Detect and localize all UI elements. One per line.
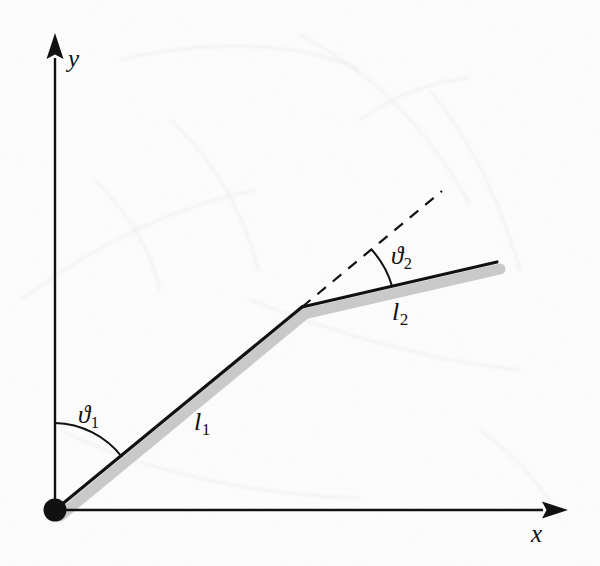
link-1-label-subscript: 1 [201,420,210,439]
angle-theta2-symbol: ϑ [391,242,403,269]
angle-theta1-symbol: ϑ [78,401,90,428]
link-2-label: l2 [392,299,408,329]
link-2-label-subscript: 2 [399,310,408,329]
angle-theta2-subscript: 2 [403,254,412,273]
angle-theta1-subscript: 1 [90,413,99,432]
link-1-label: l1 [194,409,210,439]
x-axis-label-text: x [531,520,542,547]
x-axis-label: x [531,521,542,546]
origin-joint [44,499,67,522]
figure-canvas [0,0,600,566]
y-axis-label: y [68,46,79,71]
y-axis-label-text: y [68,45,79,72]
angle-theta2-label: ϑ2 [391,243,412,273]
angle-theta1-label: ϑ1 [78,402,99,432]
manipulator-figure: y x l1 l2 ϑ1 ϑ2 [0,0,600,566]
